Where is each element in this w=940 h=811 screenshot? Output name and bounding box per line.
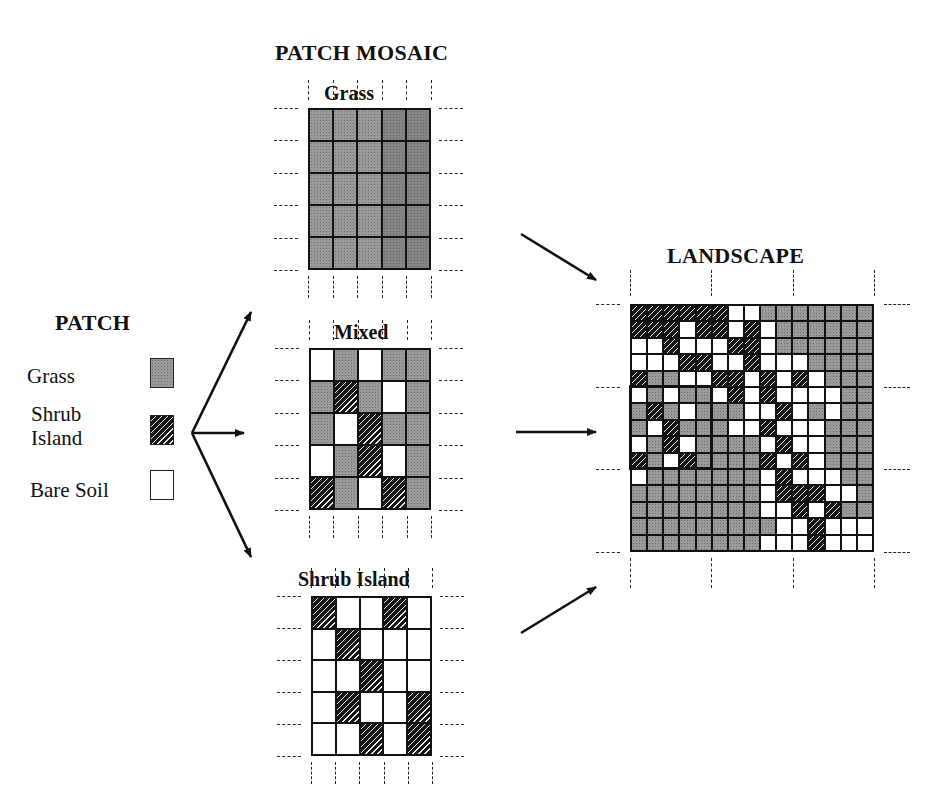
mosaic-to-landscape-arrows <box>516 234 596 633</box>
arrow-down-icon <box>192 433 251 557</box>
arrows <box>0 0 940 811</box>
arrow-up-icon <box>192 312 251 433</box>
arrow-shrub-to-landscape-icon <box>521 587 596 633</box>
arrow-grass-to-landscape-icon <box>521 234 596 280</box>
patch-to-mosaic-arrows <box>192 312 251 557</box>
